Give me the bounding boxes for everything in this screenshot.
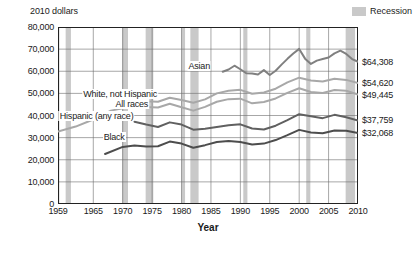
x-tick-label: 2000 [290, 206, 309, 216]
x-tick-label: 2005 [319, 206, 338, 216]
y-axis-ticks: 010,00020,00030,00040,00050,00060,00070,… [0, 27, 54, 204]
y-tick-label: 50,000 [28, 88, 54, 98]
plot-area: AsianWhite, not HispanicAll racesHispani… [58, 27, 358, 204]
income-by-race-line-chart: 2010 dollars Recession 010,00020,00030,0… [0, 0, 416, 256]
end-value-all-races: $49,445 [362, 90, 393, 100]
series-label-hispanic: Hispanic (any race) [59, 111, 135, 121]
x-axis-ticks: 1959196519701975198019851990199520002005… [58, 206, 358, 220]
series-label-white-not-hispanic: White, not Hispanic [82, 89, 158, 99]
x-tick-label: 1975 [142, 206, 161, 216]
series-label-asian: Asian [187, 61, 211, 71]
end-value-hispanic: $37,759 [362, 115, 393, 125]
y-tick-label: 10,000 [28, 177, 54, 187]
recession-legend: Recession [352, 6, 412, 16]
x-tick-label: 1985 [201, 206, 220, 216]
y-tick-label: 80,000 [28, 22, 54, 32]
x-tick-label: 1980 [172, 206, 191, 216]
recession-swatch-icon [352, 7, 366, 16]
y-tick-label: 60,000 [28, 66, 54, 76]
series-label-all-races: All races [114, 99, 149, 109]
y-tick-label: 20,000 [28, 155, 54, 165]
end-value-white-not-hispanic: $54,620 [362, 78, 393, 88]
x-tick-label: 1959 [48, 206, 67, 216]
x-tick-label: 1995 [260, 206, 279, 216]
x-tick-label: 2010 [348, 206, 367, 216]
end-value-labels: $64,308$54,620$49,445$37,759$32,068 [360, 27, 416, 204]
x-axis-title: Year [58, 222, 358, 233]
series-label-black: Black [103, 132, 126, 142]
y-tick-label: 70,000 [28, 44, 54, 54]
recession-legend-label: Recession [370, 6, 412, 16]
end-value-asian: $64,308 [362, 57, 393, 67]
x-tick-label: 1970 [113, 206, 132, 216]
x-tick-label: 1965 [84, 206, 103, 216]
y-tick-label: 30,000 [28, 133, 54, 143]
y-axis-units-note: 2010 dollars [30, 6, 78, 16]
x-tick-label: 1990 [231, 206, 250, 216]
y-tick-label: 40,000 [28, 111, 54, 121]
end-value-black: $32,068 [362, 128, 393, 138]
series-line-black [105, 130, 358, 154]
